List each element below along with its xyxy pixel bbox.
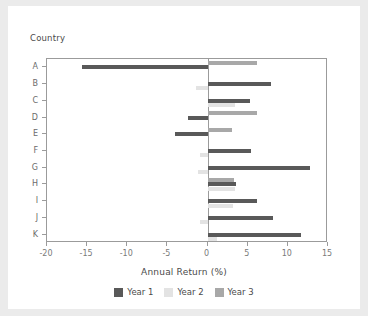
bar-year-2-F xyxy=(200,153,207,157)
bar-year-2-H xyxy=(208,187,235,191)
legend-item-year-1[interactable]: Year 1 xyxy=(114,287,153,297)
y-tick-mark xyxy=(42,217,46,218)
y-tick-label-J: J xyxy=(24,212,38,221)
x-tick-mark xyxy=(327,242,328,246)
bar-year-3-D xyxy=(208,111,258,115)
legend-label: Year 3 xyxy=(228,287,254,297)
bar-year-1-K xyxy=(208,233,302,237)
y-tick-label-C: C xyxy=(24,95,38,104)
y-tick-label-K: K xyxy=(24,229,38,238)
bar-year-1-H xyxy=(208,182,236,186)
x-tick-label--10: -10 xyxy=(111,249,141,258)
bar-year-1-B xyxy=(208,82,271,86)
y-tick-label-A: A xyxy=(24,62,38,71)
bar-year-1-F xyxy=(208,149,251,153)
bar-group xyxy=(47,109,326,126)
bar-year-3-E xyxy=(208,128,232,132)
x-tick-label-0: 0 xyxy=(192,249,222,258)
bar-group xyxy=(47,76,326,93)
x-tick-label--5: -5 xyxy=(151,249,181,258)
x-axis-title: Annual Return (%) xyxy=(8,267,360,277)
legend-item-year-2[interactable]: Year 2 xyxy=(164,287,203,297)
bar-group xyxy=(47,210,326,227)
y-tick-mark xyxy=(42,133,46,134)
bar-year-1-E xyxy=(175,132,207,136)
x-tick-label-10: 10 xyxy=(272,249,302,258)
legend-swatch-icon xyxy=(164,288,173,297)
bar-year-1-I xyxy=(208,199,258,203)
y-tick-mark xyxy=(42,83,46,84)
bar-year-2-C xyxy=(208,103,235,107)
bar-year-2-I xyxy=(208,204,234,208)
y-tick-mark xyxy=(42,167,46,168)
x-tick-label--15: -15 xyxy=(71,249,101,258)
legend-label: Year 1 xyxy=(127,287,153,297)
bar-group xyxy=(47,143,326,160)
x-tick-label-5: 5 xyxy=(232,249,262,258)
bar-year-3-A xyxy=(208,61,257,65)
bar-group xyxy=(47,126,326,143)
bar-year-1-A xyxy=(82,65,208,69)
y-tick-mark xyxy=(42,66,46,67)
x-tick-mark xyxy=(207,242,208,246)
y-axis-title: Country xyxy=(30,33,65,43)
y-tick-label-H: H xyxy=(24,179,38,188)
bar-year-2-B xyxy=(196,86,208,90)
bar-year-1-C xyxy=(208,99,251,103)
bar-group xyxy=(47,159,326,176)
x-tick-mark xyxy=(287,242,288,246)
y-tick-label-F: F xyxy=(24,146,38,155)
bar-year-1-G xyxy=(208,166,311,170)
legend-swatch-icon xyxy=(114,288,123,297)
plot-area xyxy=(46,58,327,242)
x-tick-mark xyxy=(86,242,87,246)
y-tick-mark xyxy=(42,234,46,235)
legend-swatch-icon xyxy=(215,288,224,297)
y-tick-mark xyxy=(42,183,46,184)
x-tick-mark xyxy=(247,242,248,246)
bar-year-2-J xyxy=(200,220,208,224)
bar-year-2-G xyxy=(198,170,208,174)
y-tick-mark xyxy=(42,200,46,201)
y-tick-label-B: B xyxy=(24,79,38,88)
chart-card: Country ABCDEFGHIJK-20-15-10-5051015 Ann… xyxy=(8,6,360,309)
bar-group xyxy=(47,226,326,243)
bar-year-2-K xyxy=(208,237,218,241)
bar-group xyxy=(47,92,326,109)
x-tick-label--20: -20 xyxy=(31,249,61,258)
bar-year-1-D xyxy=(188,116,207,120)
y-tick-label-E: E xyxy=(24,129,38,138)
chart-legend: Year 1Year 2Year 3 xyxy=(8,287,360,297)
x-tick-mark xyxy=(126,242,127,246)
y-tick-mark xyxy=(42,100,46,101)
x-tick-mark xyxy=(166,242,167,246)
x-tick-label-15: 15 xyxy=(312,249,342,258)
legend-label: Year 2 xyxy=(177,287,203,297)
y-tick-label-D: D xyxy=(24,112,38,121)
bar-group xyxy=(47,59,326,76)
x-tick-mark xyxy=(46,242,47,246)
bar-group xyxy=(47,176,326,193)
y-tick-label-G: G xyxy=(24,162,38,171)
bar-group xyxy=(47,193,326,210)
y-tick-label-I: I xyxy=(24,196,38,205)
y-tick-mark xyxy=(42,117,46,118)
bar-year-3-H xyxy=(208,178,234,182)
legend-item-year-3[interactable]: Year 3 xyxy=(215,287,254,297)
plot-inner xyxy=(47,59,326,241)
y-tick-mark xyxy=(42,150,46,151)
bar-year-1-J xyxy=(208,216,274,220)
